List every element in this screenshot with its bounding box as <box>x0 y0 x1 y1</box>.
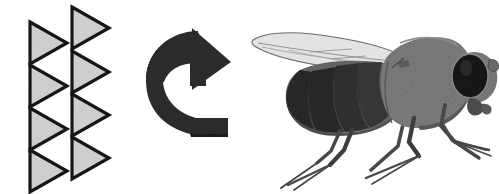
figure-canvas <box>0 0 499 194</box>
compound-eye-highlight <box>460 60 472 76</box>
arrow-band-shadow <box>190 134 228 137</box>
antenna <box>488 60 499 72</box>
arrow-head-joint <box>190 55 206 86</box>
figure-root: Motion stimulus and rotational response … <box>0 0 499 194</box>
